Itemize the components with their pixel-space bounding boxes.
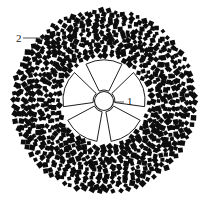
particle-marker <box>141 18 147 24</box>
particle-marker <box>102 168 108 174</box>
particle-marker <box>183 120 189 126</box>
particle-marker <box>44 123 50 129</box>
particle-marker <box>132 65 137 70</box>
particle-marker <box>141 69 146 74</box>
particle-marker <box>66 153 71 158</box>
particle-marker <box>166 87 170 91</box>
particle-marker <box>57 19 63 25</box>
particle-marker <box>165 35 170 40</box>
particle-marker <box>82 157 86 161</box>
particle-marker <box>178 148 183 153</box>
particle-marker <box>155 32 159 36</box>
particle-marker <box>33 72 38 77</box>
particle-marker <box>140 173 146 179</box>
particle-marker <box>36 124 41 129</box>
callout-label-1: 1 <box>127 95 133 107</box>
particle-marker <box>128 24 132 28</box>
particle-marker <box>190 122 195 127</box>
particle-marker <box>62 35 67 40</box>
particle-marker <box>175 78 180 83</box>
figure-caption <box>0 197 207 204</box>
particle-marker <box>33 157 38 162</box>
particle-marker <box>101 153 105 157</box>
particle-marker <box>25 140 30 145</box>
particle-marker <box>138 31 142 35</box>
rotor-hub <box>95 92 114 111</box>
particle-marker <box>31 43 36 48</box>
particle-marker <box>179 140 185 146</box>
particle-marker <box>12 118 18 124</box>
particle-marker <box>103 45 107 49</box>
particle-marker <box>12 91 17 96</box>
particle-marker <box>156 139 160 143</box>
particle-marker <box>163 107 168 112</box>
particle-marker <box>129 11 134 16</box>
callout-label-2: 2 <box>16 32 22 44</box>
particle-marker <box>61 23 67 29</box>
particle-marker <box>56 98 60 102</box>
particle-marker <box>19 132 23 136</box>
particle-marker <box>136 165 140 169</box>
particle-marker <box>156 99 160 103</box>
particle-marker <box>185 112 190 117</box>
particle-marker <box>120 12 125 17</box>
rotor-blade <box>86 60 122 91</box>
particle-marker <box>67 176 72 181</box>
particle-marker <box>163 164 170 171</box>
particle-marker <box>59 163 63 167</box>
particle-marker <box>20 62 25 67</box>
particle-marker <box>57 167 61 171</box>
particle-marker <box>191 115 197 121</box>
particle-marker <box>81 29 85 33</box>
particle-marker <box>137 149 141 153</box>
particle-marker <box>129 180 135 186</box>
particle-marker <box>36 38 40 42</box>
particle-marker <box>131 176 136 181</box>
particle-marker <box>117 26 123 32</box>
particle-marker <box>58 142 64 148</box>
particle-marker <box>56 102 64 110</box>
particle-marker <box>61 40 68 47</box>
particle-marker <box>24 124 28 128</box>
particle-marker <box>88 151 92 155</box>
particle-marker <box>118 188 124 194</box>
particle-marker <box>113 159 117 163</box>
particle-marker <box>78 164 83 169</box>
particle-marker <box>21 139 26 144</box>
particle-marker <box>61 127 67 133</box>
particle-marker <box>87 141 91 145</box>
particle-marker <box>154 26 159 31</box>
particle-marker <box>43 59 50 66</box>
particle-marker <box>92 167 96 171</box>
rotor-blade <box>63 73 96 107</box>
particle-marker <box>158 110 162 114</box>
particle-marker <box>186 63 191 68</box>
particle-marker <box>85 17 93 25</box>
particle-marker <box>44 66 49 71</box>
particle-marker <box>143 113 148 118</box>
particle-marker <box>68 183 72 187</box>
particle-marker <box>166 157 173 164</box>
particle-marker <box>167 48 172 53</box>
rotor-particle-figure: 12 <box>0 0 207 204</box>
particle-marker <box>71 143 75 147</box>
particle-marker <box>108 17 113 22</box>
particle-marker <box>133 40 138 45</box>
particle-marker <box>48 119 52 123</box>
particle-marker <box>182 57 187 62</box>
particle-marker <box>147 47 153 53</box>
particle-marker <box>146 150 152 156</box>
particle-marker <box>91 39 95 43</box>
particle-marker <box>160 29 165 34</box>
particle-marker <box>139 26 144 31</box>
particle-marker <box>110 189 115 194</box>
figure-container: 12 <box>0 0 207 204</box>
particle-marker <box>174 154 179 159</box>
particle-marker <box>136 15 140 19</box>
particle-marker <box>137 35 142 40</box>
particle-marker <box>92 10 97 15</box>
particle-marker <box>191 99 198 106</box>
particle-marker <box>140 76 145 81</box>
particle-marker <box>145 177 150 182</box>
particle-marker <box>171 74 175 78</box>
